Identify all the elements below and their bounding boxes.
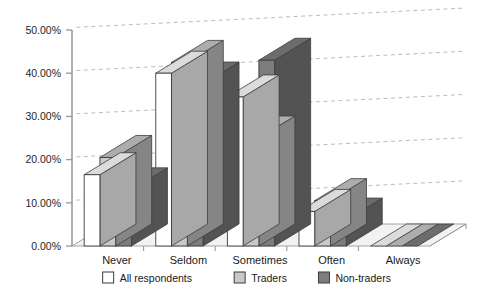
category-axis-label: Never [102, 254, 132, 266]
y-axis-tick-label: 40.00% [25, 67, 61, 79]
y-axis-tick-label: 50.00% [25, 24, 61, 36]
legend-swatch [234, 272, 245, 283]
category-axis-label: Seldom [170, 254, 207, 266]
chart-legend: All respondentsTradersNon-traders [103, 272, 391, 284]
y-axis-tick-label: 10.00% [25, 197, 61, 209]
legend-item[interactable]: Non-traders [318, 272, 390, 284]
y-axis-tick-group: 0.00%10.00%20.00%30.00%40.00%50.00% [25, 24, 72, 252]
category-axis-label: Sometimes [232, 254, 288, 266]
chart-canvas: 0.00%10.00%20.00%30.00%40.00%50.00% Neve… [0, 0, 491, 305]
category-axis-label: Always [386, 254, 421, 266]
y-axis-tick-label: 20.00% [25, 153, 61, 165]
legend-label: Traders [251, 272, 287, 284]
bar-front-face [84, 175, 100, 246]
y-axis-tick-label: 0.00% [31, 240, 61, 252]
legend-label: Non-traders [335, 272, 390, 284]
category-axis-label: Often [318, 254, 345, 266]
bar-group [84, 38, 454, 246]
legend-item[interactable]: Traders [234, 272, 287, 284]
legend-label: All respondents [120, 272, 192, 284]
bar-side-face [243, 75, 279, 246]
bar-chart: 0.00%10.00%20.00%30.00%40.00%50.00% Neve… [0, 0, 491, 305]
legend-swatch [103, 272, 114, 283]
legend-swatch [318, 272, 329, 283]
y-axis-tick-label: 30.00% [25, 110, 61, 122]
legend-item[interactable]: All respondents [103, 272, 192, 284]
bar-side-face [172, 51, 208, 246]
